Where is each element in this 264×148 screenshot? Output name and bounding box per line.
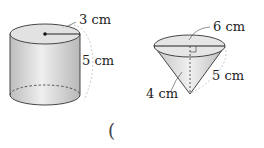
- cone: [154, 27, 226, 94]
- answer-paren: (: [108, 120, 115, 141]
- cylinder-height-label: 5 cm: [82, 53, 114, 68]
- figure-canvas: 3 cm 5 cm 6 cm 5 cm 4 cm: [0, 0, 264, 148]
- cylinder-radius-label: 3 cm: [79, 12, 111, 27]
- cone-height-label: 4 cm: [146, 86, 178, 101]
- cylinder-body: [10, 34, 80, 105]
- cylinder: [10, 22, 93, 105]
- cone-diameter-label: 6 cm: [213, 19, 245, 34]
- radius-leader: [66, 22, 76, 27]
- cone-slant-label: 5 cm: [212, 68, 244, 83]
